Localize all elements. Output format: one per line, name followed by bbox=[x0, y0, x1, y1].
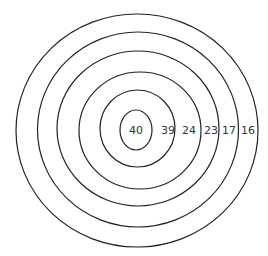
concentric-ring-diagram: 40 39 24 23 17 16 bbox=[0, 0, 268, 256]
ring-label-5: 17 bbox=[222, 124, 236, 137]
ring-label-1: 40 bbox=[129, 124, 143, 137]
ring-labels: 40 39 24 23 17 16 bbox=[129, 124, 255, 137]
ring-label-4: 23 bbox=[204, 124, 218, 137]
ring-label-3: 24 bbox=[182, 124, 196, 137]
ring-label-2: 39 bbox=[161, 124, 175, 137]
ring-label-6: 16 bbox=[241, 124, 255, 137]
